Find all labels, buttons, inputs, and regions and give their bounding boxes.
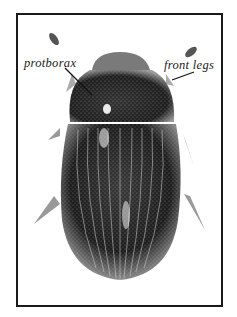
- head: [92, 52, 150, 70]
- leg-hind-left: [34, 196, 60, 224]
- leg-mid-right: [183, 134, 195, 170]
- label-prothorax: protborax: [24, 56, 76, 71]
- beetle-illustration: [0, 0, 237, 317]
- leader-line-front-legs: [172, 72, 194, 80]
- leg-mid-left: [48, 128, 60, 140]
- antenna-left: [47, 31, 61, 46]
- label-front-legs: front legs: [164, 58, 214, 73]
- leg-hind-right: [184, 194, 205, 230]
